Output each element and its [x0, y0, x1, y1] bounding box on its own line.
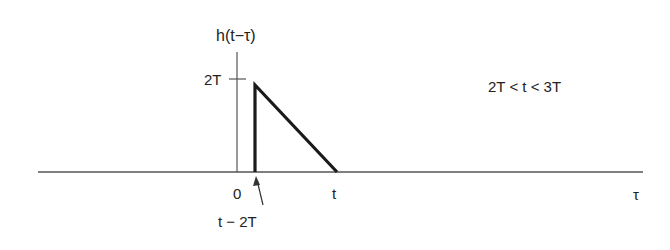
signal-triangle [255, 85, 337, 172]
y-axis-label: h(t−τ) [216, 28, 256, 44]
x-axis-label: τ [633, 187, 639, 202]
y-tick-label: 2T [204, 72, 222, 87]
origin-label: 0 [233, 186, 241, 201]
condition-label: 2T < t < 3T [488, 79, 561, 94]
annotation-arrow-label: t − 2T [218, 214, 257, 229]
t-label: t [332, 186, 336, 201]
annotation-arrow-head [253, 176, 260, 186]
diagram-canvas [0, 0, 670, 250]
